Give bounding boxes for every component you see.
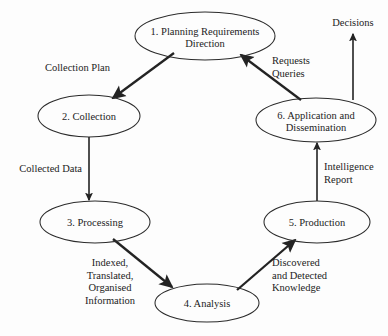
edge-arrow-collection-plan [113,53,174,98]
edge-label-line: and Detected [272,270,328,281]
node-label-collection: 2. Collection [62,111,117,122]
edge-label-discovered-and-detected-knowledge: Discoveredand DetectedKnowledge [272,257,328,293]
node-planning-requirements-direction[interactable]: 1. Planning RequirementsDirection [135,12,275,60]
edge-label-line: Knowledge [272,282,321,293]
node-label-analysis: 4. Analysis [184,298,231,309]
node-label-line: 6. Application and [277,110,355,121]
node-label-line: 2. Collection [62,111,117,122]
edge-label-line: Intelligence [324,161,374,172]
edge-label-line: Collected Data [19,163,82,174]
intelligence-cycle-diagram: 1. Planning RequirementsDirection2. Coll… [0,0,388,336]
edge-labels-layer: Collection PlanCollected DataIndexed,Tra… [19,55,374,306]
edge-label-line: Report [324,174,353,185]
node-production[interactable]: 5. Production [264,201,370,243]
node-label-production: 5. Production [289,217,346,228]
edge-label-line: Collection Plan [45,62,111,73]
edge-label-line: Discovered [272,257,321,268]
edge-label-line: Information [85,295,136,306]
node-application-and-dissemination[interactable]: 6. Application andDissemination [256,98,376,142]
edges-layer [89,34,353,290]
intelligence-cycle-diagram-page: 1. Planning RequirementsDirection2. Coll… [0,0,388,336]
edge-label-line: Translated, [87,270,134,281]
node-collection[interactable]: 2. Collection [38,95,140,137]
edge-label-line: Organised [89,282,133,293]
node-label-line: 4. Analysis [184,298,231,309]
edge-label-requests-queries: RequestsQueries [272,55,310,79]
node-analysis[interactable]: 4. Analysis [155,284,259,322]
node-label-line: Direction [185,38,225,49]
node-processing[interactable]: 3. Processing [40,201,150,243]
node-label-line: 5. Production [289,217,346,228]
node-label-application-and-dissemination: 6. Application andDissemination [277,110,355,134]
node-label-line: Dissemination [286,122,347,133]
edge-label-collected-data: Collected Data [19,163,82,174]
edge-label-line: Requests [272,55,310,66]
node-label-line: 1. Planning Requirements [151,26,260,37]
edge-label-line: Queries [272,68,305,79]
edge-label-intelligence-report: IntelligenceReport [324,161,374,185]
node-label-planning-requirements-direction: 1. Planning RequirementsDirection [151,26,260,50]
terminals-layer: Decisions [332,17,373,28]
edge-label-indexed-translated-organised-information: Indexed,Translated,OrganisedInformation [85,257,136,306]
node-label-line: 3. Processing [67,217,124,228]
node-label-processing: 3. Processing [67,217,124,228]
edge-label-line: Indexed, [92,257,128,268]
edge-label-collection-plan: Collection Plan [45,62,111,73]
terminal-label-decisions: Decisions [332,17,373,28]
